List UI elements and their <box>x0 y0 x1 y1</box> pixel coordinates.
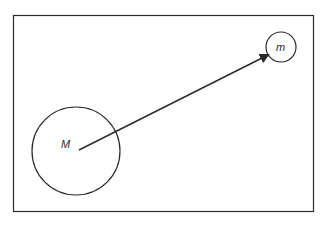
large-mass-label: M <box>61 138 71 150</box>
frame-border <box>14 16 314 212</box>
force-arrow <box>79 55 268 150</box>
small-mass-label: m <box>276 41 285 53</box>
large-mass-circle <box>32 107 120 195</box>
gravity-diagram: M m <box>0 0 323 226</box>
